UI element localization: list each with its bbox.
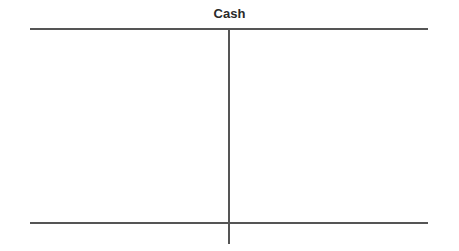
account-title: Cash: [0, 6, 459, 21]
bottom-horizontal-line: [30, 222, 428, 224]
center-vertical-line: [228, 29, 230, 244]
